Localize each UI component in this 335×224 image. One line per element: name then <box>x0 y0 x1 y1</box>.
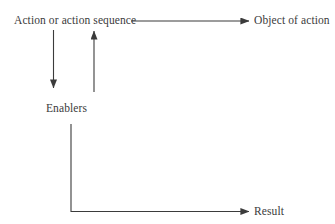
node-label-result: Result <box>254 205 284 218</box>
node-label-object-of-action: Object of action <box>254 14 330 27</box>
node-label-enablers: Enablers <box>46 102 87 115</box>
flow-diagram: Action or action sequence Object of acti… <box>0 0 335 224</box>
edge-enablers-to-result <box>71 124 249 212</box>
node-label-action-or-action-sequence: Action or action sequence <box>14 14 136 27</box>
